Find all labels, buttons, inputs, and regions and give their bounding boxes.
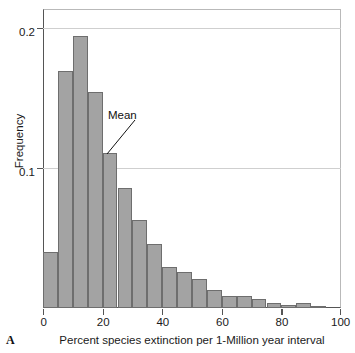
histogram-bar [281,305,296,308]
histogram-bar [177,272,192,308]
xtick-label-0: 0 [24,317,64,329]
xtick-mark-100 [340,309,341,315]
xtick-label-60: 60 [202,317,242,329]
xtick-mark-0 [43,309,44,315]
histogram-bar [192,279,207,308]
histogram-bar [118,188,133,308]
panel-letter: A [6,333,15,348]
xtick-mark-60 [222,309,223,315]
xtick-mark-40 [162,309,163,315]
histogram-bar [222,296,237,308]
histogram-bar [73,36,88,308]
histogram-bar [132,220,147,308]
ytick-label-0.2: 0.2 [19,26,35,38]
histogram-bar [43,252,58,308]
histogram-bar [237,296,252,308]
x-axis-title: Percent species extinction per 1-Million… [43,334,341,346]
histogram-bar [252,299,267,308]
histogram-bar [267,303,282,308]
y-axis-title: Frequency [13,81,25,201]
mean-annotation-label: Mean [108,110,137,122]
histogram-bar [103,153,118,308]
xtick-mark-80 [281,309,282,315]
histogram-bar [88,92,103,308]
xtick-label-20: 20 [83,317,123,329]
xtick-mark-20 [103,309,104,315]
xtick-label-80: 80 [262,317,302,329]
histogram-bars [43,9,341,308]
xtick-label-40: 40 [143,317,183,329]
histogram-bar [311,306,326,308]
histogram-bar [162,267,177,308]
histogram-bar [296,303,311,308]
xtick-label-100: 100 [321,317,355,329]
histogram-bar [147,244,162,308]
histogram-bar [207,290,222,308]
histogram-bar [58,71,73,308]
